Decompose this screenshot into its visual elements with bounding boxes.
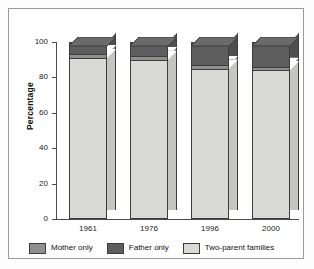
- bar-segment-side: [168, 47, 177, 51]
- y-axis-tick-label: 80: [39, 73, 48, 81]
- x-axis-tick-label: 1976: [121, 225, 177, 233]
- chart-legend: Mother onlyFather onlyTwo-parent familie…: [29, 239, 301, 257]
- y-axis-tick-label: 100: [35, 38, 48, 46]
- plot-area: 020406080100 1961197619962000: [56, 42, 299, 219]
- bar-segment[interactable]: [252, 67, 290, 71]
- bar-front-faces: [191, 42, 229, 219]
- bar-column[interactable]: [130, 42, 177, 219]
- legend-item[interactable]: Father only: [107, 243, 169, 254]
- bar-front-faces: [69, 42, 107, 219]
- legend-swatch-icon: [29, 243, 46, 254]
- chart-frame-border: Percentage 020406080100 1961197619962000…: [8, 8, 304, 259]
- legend-item[interactable]: Mother only: [29, 243, 93, 254]
- x-axis-tick-label: 2000: [243, 225, 299, 233]
- bar-segment-side: [107, 49, 116, 210]
- bar-column[interactable]: [191, 42, 238, 219]
- bar-segment-side: [229, 60, 238, 210]
- y-axis-tick: 80: [52, 77, 56, 78]
- y-axis-title: Percentage: [25, 82, 35, 130]
- bar-segment-side: [290, 61, 299, 210]
- bar-top-face: [130, 33, 177, 43]
- bar-segment[interactable]: [252, 70, 290, 219]
- y-axis-tick: 20: [52, 184, 56, 185]
- bar-segment[interactable]: [130, 56, 168, 60]
- legend-label: Mother only: [51, 244, 93, 252]
- y-axis-line: [56, 42, 57, 220]
- bar-segment-side: [229, 56, 238, 60]
- legend-swatch-icon: [183, 243, 200, 254]
- figure-canvas: Percentage 020406080100 1961197619962000…: [0, 0, 314, 269]
- x-axis-line: [56, 219, 299, 220]
- bar-front-faces: [252, 42, 290, 219]
- x-axis-tick-label: 1996: [182, 225, 238, 233]
- bar-top-face: [252, 33, 299, 43]
- bar-front-faces: [130, 42, 168, 219]
- bar-top-face: [191, 33, 238, 43]
- bar-segment-side: [168, 51, 177, 210]
- bar-column[interactable]: [69, 42, 116, 219]
- y-axis-tick: 0: [52, 219, 56, 220]
- bar-segment[interactable]: [69, 54, 107, 58]
- y-axis-tick-label: 0: [44, 215, 48, 223]
- y-axis-tick: 100: [52, 42, 56, 43]
- bar-segment[interactable]: [191, 65, 229, 69]
- legend-label: Two-parent families: [205, 244, 274, 252]
- x-axis-tick-label: 1961: [60, 225, 116, 233]
- bar-segment[interactable]: [130, 60, 168, 219]
- legend-swatch-icon: [107, 243, 124, 254]
- y-axis-tick: 60: [52, 113, 56, 114]
- bar-segment[interactable]: [191, 69, 229, 219]
- bar-top-face: [69, 33, 116, 43]
- y-axis-tick: 40: [52, 148, 56, 149]
- y-axis-tick-label: 60: [39, 109, 48, 117]
- y-axis-tick-label: 20: [39, 180, 48, 188]
- bar-column[interactable]: [252, 42, 299, 219]
- legend-label: Father only: [129, 244, 169, 252]
- bar-segment-side: [290, 58, 299, 62]
- y-axis-tick-label: 40: [39, 144, 48, 152]
- bar-segment[interactable]: [69, 58, 107, 219]
- legend-item[interactable]: Two-parent families: [183, 243, 274, 254]
